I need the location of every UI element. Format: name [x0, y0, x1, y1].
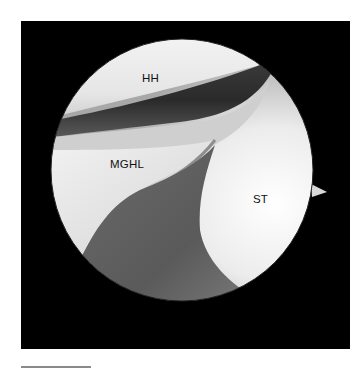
scale-bar	[21, 366, 91, 368]
label-mghl: MGHL	[110, 159, 144, 171]
label-st: ST	[253, 194, 268, 206]
arthroscopic-image	[0, 0, 363, 371]
label-hh: HH	[142, 73, 159, 85]
